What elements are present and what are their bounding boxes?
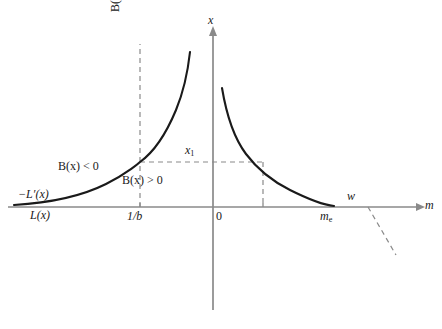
tick-label-w: w <box>347 190 355 202</box>
x1-subscript: 1 <box>190 149 194 158</box>
curve-right-branch <box>222 88 334 206</box>
tick-label-m-e-subscript: e <box>329 215 333 224</box>
m-axis-label: m <box>425 199 434 211</box>
phase-diagram-figure: x m 0 1/b me w −L′(x) L(x) left-branchx1… <box>0 0 442 329</box>
tick-label-one-over-b: 1/b <box>127 210 142 222</box>
curve-left-branch <box>14 52 190 205</box>
left-asymptote-lower-label: L(x) <box>30 209 50 221</box>
x-axis-label: x <box>208 14 213 26</box>
left-asymptote-upper-label: −L′(x) <box>18 188 49 200</box>
x1-level-label: left-branchx1 <box>185 144 194 158</box>
curves-group <box>14 52 334 206</box>
dashed-w-ray <box>368 207 396 255</box>
region-label-negative: B(x) < 0 <box>58 160 99 172</box>
dashed-lines-group <box>140 44 396 255</box>
region-label-zero-line: B(x) = 0 <box>109 0 121 12</box>
x-axis-arrowhead <box>209 26 217 36</box>
m-axis-arrowhead <box>416 203 425 211</box>
region-label-positive: B(x) > 0 <box>122 174 163 186</box>
origin-label: 0 <box>216 210 222 222</box>
tick-label-m-e-base: m <box>320 209 329 223</box>
tick-label-m-e: me <box>320 210 332 224</box>
